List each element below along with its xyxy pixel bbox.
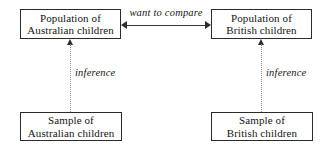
node-population-australian: Population of Australian children: [20, 9, 121, 39]
node-population-australian-label: Population of Australian children: [25, 12, 116, 37]
connector-compare: want to compare: [121, 18, 211, 34]
connector-inference-british-line: [261, 44, 262, 112]
connector-inference-british: inference: [261, 39, 262, 112]
node-sample-british-label: Sample of British children: [225, 114, 299, 139]
node-sample-australian-label: Sample of Australian children: [26, 114, 117, 139]
connector-compare-label: want to compare: [121, 7, 211, 18]
node-population-british-label: Population of British children: [224, 12, 298, 37]
node-population-british: Population of British children: [211, 9, 312, 39]
arrow-right-icon: [205, 21, 211, 29]
connector-inference-australian-line: [70, 44, 71, 112]
connector-inference-australian: inference: [70, 39, 71, 112]
node-sample-british: Sample of British children: [211, 112, 313, 141]
connector-inference-british-label: inference: [266, 67, 306, 78]
node-sample-australian: Sample of Australian children: [20, 112, 122, 141]
connector-inference-australian-label: inference: [75, 67, 115, 78]
statistical-inference-diagram: Population of Australian children Popula…: [0, 0, 330, 144]
connector-compare-line: [125, 25, 207, 26]
